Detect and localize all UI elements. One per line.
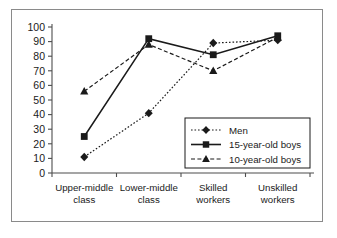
data-point-marker-diamond [80,153,88,161]
y-axis-tick-label: 70 [33,65,45,77]
line-chart-plot: 0102030405060708090100Upper-middleclassL… [12,10,322,221]
x-axis-category-label: Unskilledworkers [258,182,297,205]
y-axis-tick-label: 90 [33,35,45,47]
y-axis-tick-label: 20 [33,138,45,150]
series-3 [80,33,282,94]
x-axis-category-label: Upper-middleclass [55,182,113,205]
x-axis-category-label-line: Skilled [199,182,228,193]
legend-entry-label: 15-year-old boys [229,139,301,150]
x-axis-category-label-line: class [73,194,95,205]
y-axis-tick-label: 40 [33,108,45,120]
y-axis-tick-label: 80 [33,50,45,62]
data-point-marker-square [203,141,209,147]
x-axis-category-label-line: workers [260,194,295,205]
x-axis-category-label-line: workers [195,194,230,205]
data-point-marker-triangle [209,67,217,74]
chart-figure: 0102030405060708090100Upper-middleclassL… [11,9,323,222]
x-axis-category-label: Lower-middleclass [120,182,178,205]
x-axis-category-label-line: class [138,194,160,205]
legend: Men15-year-old boys10-year-old boys [185,118,310,168]
data-point-marker-square [81,133,88,140]
y-axis-tick-label: 10 [33,152,45,164]
x-axis-category-label-line: Lower-middle [120,182,178,193]
series-line [84,37,278,91]
y-axis-tick-label: 60 [33,79,45,91]
x-axis-category-label-line: Upper-middle [55,182,113,193]
data-point-marker-triangle [80,87,88,94]
legend-entry-label: Men [229,125,248,136]
x-axis-category-label-line: Unskilled [258,182,297,193]
x-axis-category-label: Skilledworkers [195,182,230,205]
y-axis-tick-label: 50 [33,94,45,106]
y-axis-tick-label: 0 [39,167,45,179]
y-axis-tick-label: 100 [27,21,45,33]
legend-entry-label: 10-year-old boys [229,154,301,165]
y-axis-tick-label: 30 [33,123,45,135]
data-point-marker-square [210,51,217,58]
